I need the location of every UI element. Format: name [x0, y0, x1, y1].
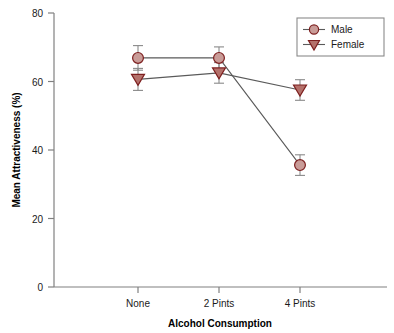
data-point-female-none	[132, 74, 145, 85]
x-tick-label-2pints: 2 Pints	[204, 298, 235, 309]
x-axis-ticks: None 2 Pints 4 Pints	[126, 287, 315, 309]
data-point-male-none	[133, 53, 144, 64]
data-point-male-4pints	[295, 160, 306, 171]
chart-container: 0 20 40 60 80 None 2 Pints 4 Pints Alcoh…	[0, 0, 394, 333]
error-bars	[133, 46, 305, 176]
x-axis-title: Alcohol Consumption	[168, 318, 272, 329]
x-tick-label-4pints: 4 Pints	[285, 298, 316, 309]
legend-label-male: Male	[331, 24, 353, 35]
data-markers	[132, 53, 307, 171]
y-axis-title: Mean Attractiveness (%)	[11, 92, 22, 207]
y-axis-ticks: 0 20 40 60 80	[32, 8, 54, 293]
legend-label-female: Female	[331, 39, 365, 50]
line-chart-with-error-bars: 0 20 40 60 80 None 2 Pints 4 Pints Alcoh…	[0, 0, 394, 333]
y-tick-label-40: 40	[32, 145, 44, 156]
data-point-male-2pints	[214, 53, 225, 64]
legend-marker-circle-icon	[309, 25, 318, 34]
x-tick-label-none: None	[126, 298, 150, 309]
y-tick-label-20: 20	[32, 214, 44, 225]
y-tick-label-0: 0	[37, 282, 43, 293]
chart-legend: Male Female	[297, 18, 384, 56]
y-tick-label-80: 80	[32, 8, 44, 19]
y-tick-label-60: 60	[32, 77, 44, 88]
data-point-female-4pints	[294, 85, 307, 96]
